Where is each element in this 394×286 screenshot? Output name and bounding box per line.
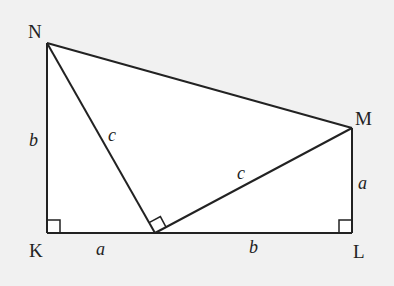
trapezoid-fill — [47, 43, 352, 233]
side-label-LM: a — [358, 173, 367, 193]
side-label-KP: a — [96, 239, 105, 259]
vertex-label-K: K — [29, 240, 43, 261]
side-label-PL: b — [249, 237, 258, 257]
side-label-NK: b — [29, 130, 38, 150]
vertex-label-M: M — [355, 108, 372, 129]
vertex-label-N: N — [28, 21, 42, 42]
trapezoid-diagram: N K L M b a b a c c — [0, 0, 394, 286]
side-label-PM: c — [237, 163, 245, 183]
vertex-label-L: L — [353, 241, 365, 262]
side-label-NP: c — [108, 125, 116, 145]
